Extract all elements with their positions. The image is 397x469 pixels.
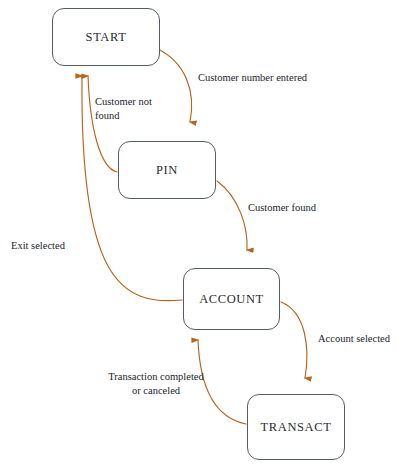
- state-node-pin[interactable]: PIN: [118, 141, 216, 199]
- edge-start-to-pin: [156, 48, 192, 122]
- state-node-transact-label: TRANSACT: [261, 420, 332, 435]
- state-diagram-canvas: START PIN ACCOUNT TRANSACT Customer numb…: [0, 0, 397, 469]
- edge-label-transact-to-account: Transaction completed or canceled: [101, 370, 211, 397]
- state-node-account-label: ACCOUNT: [199, 292, 264, 307]
- edge-label-pin-to-account: Customer found: [248, 201, 316, 215]
- state-node-pin-label: PIN: [156, 163, 178, 178]
- state-node-account[interactable]: ACCOUNT: [183, 268, 280, 330]
- edge-label-start-to-pin: Customer number entered: [198, 71, 307, 85]
- state-node-transact[interactable]: TRANSACT: [247, 394, 345, 460]
- edge-label-account-to-transact: Account selected: [318, 332, 390, 346]
- edge-label-pin-to-start: Customer not found: [95, 95, 152, 122]
- edge-account-to-transact: [281, 302, 307, 378]
- edge-pin-to-start: [88, 76, 117, 172]
- edge-label-account-to-start: Exit selected: [11, 239, 65, 253]
- edge-pin-to-account: [217, 181, 247, 250]
- state-node-start-label: START: [86, 30, 127, 45]
- state-node-start[interactable]: START: [52, 8, 160, 66]
